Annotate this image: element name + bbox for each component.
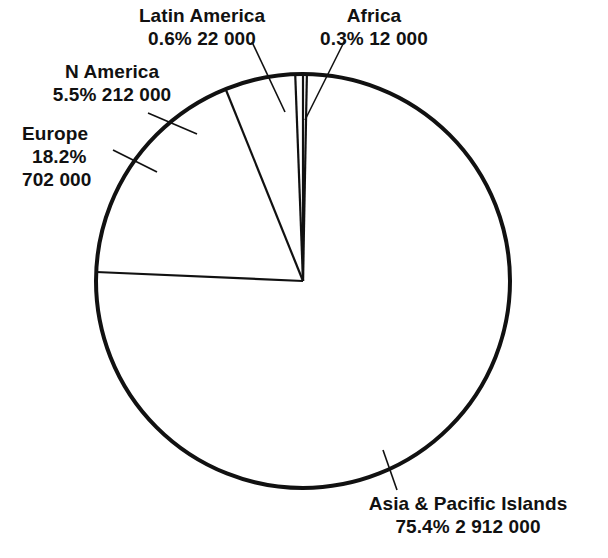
slice-label-africa: Africa 0.3% 12 000 — [296, 4, 452, 50]
slice-label-africa-name: Africa — [296, 4, 452, 27]
slice-label-n-america-name: N America — [22, 60, 202, 83]
slice-label-europe-percent: 18.2% — [22, 145, 142, 168]
slice-label-europe: Europe 18.2% 702 000 — [22, 122, 142, 191]
slice-label-asia-pacific: Asia & Pacific Islands 75.4% 2 912 000 — [344, 492, 592, 538]
slice-label-n-america: N America 5.5% 212 000 — [22, 60, 202, 106]
slice-label-latin-america: Latin America 0.6% 22 000 — [118, 4, 286, 50]
slice-label-africa-value: 0.3% 12 000 — [296, 27, 452, 50]
slice-label-latin-america-name: Latin America — [118, 4, 286, 27]
slice-label-n-america-value: 5.5% 212 000 — [22, 83, 202, 106]
pie-chart-page: Latin America 0.6% 22 000 Africa 0.3% 12… — [0, 0, 608, 558]
slice-label-asia-pacific-name: Asia & Pacific Islands — [344, 492, 592, 515]
slice-label-latin-america-value: 0.6% 22 000 — [118, 27, 286, 50]
slice-label-asia-pacific-value: 75.4% 2 912 000 — [344, 515, 592, 538]
slice-label-europe-name: Europe — [22, 122, 142, 145]
slice-label-europe-count: 702 000 — [22, 168, 142, 191]
